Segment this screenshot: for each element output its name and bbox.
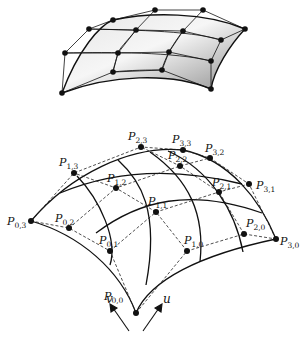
control-point-dot: [110, 69, 116, 75]
control-point-dot: [115, 50, 121, 56]
v-axis-label: v: [106, 292, 113, 306]
control-point-dot: [152, 7, 158, 13]
label-P21: P2,1: [211, 176, 231, 191]
label-P13: P1,3: [58, 156, 79, 171]
control-point-dot: [133, 27, 139, 33]
control-point-dot: [208, 58, 214, 64]
control-point-P30: [273, 236, 279, 242]
control-point-P03: [28, 218, 34, 224]
label-P02: P0,2: [54, 212, 75, 227]
label-P33: P3,3: [171, 133, 192, 148]
v-arrow-icon: [113, 308, 129, 331]
bezier-surface-figure: P0,0P0,1P0,2P0,3P1,0P1,1P1,2P1,3P2,0P2,1…: [0, 0, 301, 352]
control-point-dot: [86, 26, 92, 32]
u-axis-label: u: [163, 292, 171, 306]
control-point-dot: [62, 50, 68, 56]
control-point-P00: [133, 310, 139, 316]
control-point-dot: [180, 28, 186, 34]
control-point-dot: [159, 67, 165, 73]
label-P03: P0,3: [6, 215, 27, 230]
control-point-dot: [242, 26, 248, 32]
control-point-dot: [59, 90, 65, 96]
label-P30: P3,0: [279, 235, 300, 250]
control-point-dot: [110, 17, 116, 23]
control-point-P20: [241, 231, 247, 237]
bottom-patch-curves: [31, 149, 276, 313]
label-P20: P2,0: [245, 217, 266, 232]
label-P31: P3,1: [255, 179, 275, 194]
control-point-dot: [218, 37, 224, 43]
control-point-labels: P0,0P0,1P0,2P0,3P1,0P1,1P1,2P1,3P2,0P2,1…: [6, 130, 300, 305]
control-point-dot: [208, 86, 214, 92]
parameter-arrows: [110, 304, 162, 331]
u-arrow-icon: [143, 308, 159, 331]
boundary-u0: [136, 239, 276, 313]
control-point-P31: [246, 181, 252, 187]
label-P23: P2,3: [127, 130, 148, 145]
label-P01: P0,1: [98, 234, 118, 249]
label-P11: P1,1: [147, 195, 167, 210]
label-P32: P3,2: [204, 142, 225, 157]
control-point-P10: [184, 248, 190, 254]
control-point-dot: [200, 7, 206, 13]
polygon-edge: [136, 234, 276, 313]
control-point-dot: [166, 49, 172, 55]
label-P12: P1,2: [106, 172, 127, 187]
